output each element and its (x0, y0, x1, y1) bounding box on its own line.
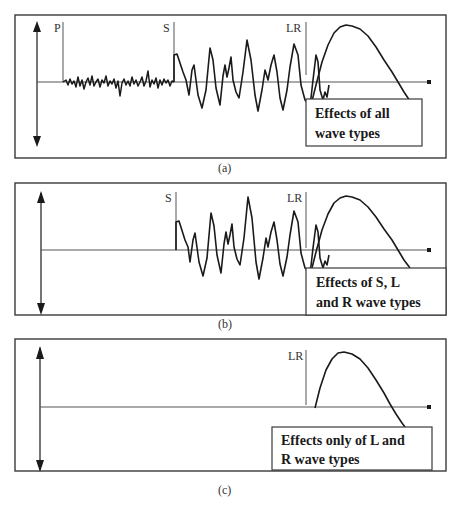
description-b-line1: Effects of S, L (316, 275, 400, 290)
s-label: S (163, 21, 170, 35)
description-b-line2: and R wave types (316, 295, 421, 310)
p-label: P (54, 21, 61, 35)
amplitude-arrow-icon (33, 21, 41, 147)
amplitude-arrow-icon (37, 191, 45, 315)
panel-c: LR Effects only of L and R wave types (c… (15, 339, 446, 497)
lr-label: LR (288, 349, 303, 363)
lr-label: LR (287, 191, 302, 205)
lr-wave-trace (315, 352, 408, 431)
axis-end-marker-icon (427, 248, 431, 252)
axis-end-marker-icon (427, 80, 431, 84)
panel-b: S LR Effects of S, L and R wave types (b… (15, 183, 446, 331)
description-a-line2: wave types (315, 126, 380, 141)
description-c-line2: R wave types (281, 452, 360, 467)
axis-end-marker-icon (427, 405, 431, 409)
lr-wave-trace (311, 196, 410, 272)
caption-c: (c) (218, 483, 231, 497)
p-wave-trace (63, 71, 174, 96)
seismic-wave-diagram: P S LR Effects of all wave types (a) S (0, 0, 457, 507)
lr-label: LR (286, 21, 301, 35)
s-label: S (165, 191, 172, 205)
description-c-line1: Effects only of L and (281, 433, 405, 448)
caption-b: (b) (218, 317, 232, 331)
caption-a: (a) (218, 161, 231, 175)
description-a-line1: Effects of all (315, 106, 390, 121)
panel-a: P S LR Effects of all wave types (a) (15, 15, 446, 175)
amplitude-arrow-icon (36, 346, 44, 472)
